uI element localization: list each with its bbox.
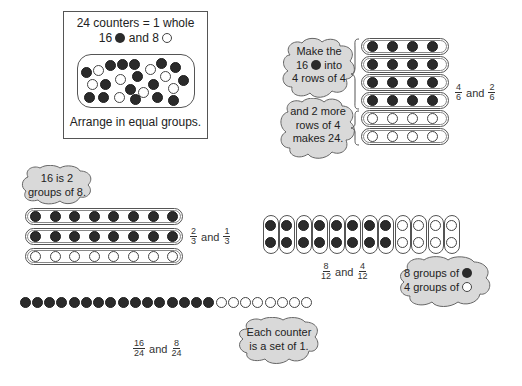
counter (50, 231, 61, 242)
counter (427, 77, 438, 88)
fraction-2-6: 26 (488, 83, 495, 102)
counter (427, 95, 438, 106)
counter (69, 231, 80, 242)
and-label: and (149, 343, 167, 355)
fraction-4-6: 46 (455, 83, 462, 102)
counter (277, 297, 288, 308)
counter (89, 251, 100, 262)
counter (114, 92, 125, 103)
counter (130, 297, 141, 308)
cloud-line: groups of 8. (20, 186, 94, 200)
counter (427, 59, 438, 70)
filled-counter-icon (311, 60, 321, 70)
counter (314, 220, 325, 231)
counter (108, 231, 119, 242)
cloud-word: into (324, 59, 342, 71)
counter (407, 41, 418, 52)
counter (44, 297, 55, 308)
counter (427, 113, 438, 124)
counter (347, 220, 358, 231)
counter (367, 95, 378, 106)
counter (93, 65, 104, 76)
counter (50, 211, 61, 222)
counter (148, 211, 159, 222)
cloud-pairs-text: 8 groups of 4 groups of (404, 266, 472, 294)
counter (265, 220, 276, 231)
filled-counter-icon (115, 33, 125, 43)
counter (216, 297, 227, 308)
cloud-rows-of-4-top-text: Make the 16 into 4 rows of 4 (280, 45, 358, 86)
counter (168, 95, 179, 106)
counter (167, 297, 178, 308)
cloud-line: 4 rows of 4 (280, 72, 358, 86)
counter (413, 220, 424, 231)
counter (93, 297, 104, 308)
counter (50, 251, 61, 262)
denominator: 12 (321, 272, 331, 281)
counter (367, 59, 378, 70)
counter (56, 297, 67, 308)
counter (105, 60, 116, 71)
counter (81, 297, 92, 308)
counter (364, 220, 375, 231)
counter (446, 237, 457, 248)
cloud-count: 16 (296, 59, 308, 71)
counter (298, 237, 309, 248)
counter (148, 79, 159, 90)
and-label: and (201, 231, 219, 243)
counter (32, 297, 43, 308)
row-of-8 (25, 228, 183, 245)
counter (132, 71, 143, 82)
fraction-1-3: 13 (223, 227, 230, 246)
counter (367, 41, 378, 52)
denominator: 12 (357, 272, 367, 281)
counter (129, 59, 140, 70)
counter (115, 74, 126, 85)
counter (154, 297, 165, 308)
counter (89, 211, 100, 222)
empty-counter-icon (162, 33, 172, 43)
counter (427, 131, 438, 142)
fraction-4-12: 412 (357, 262, 367, 281)
fraction-twenty-fourths: 1624 and 824 (133, 339, 181, 358)
counter (98, 92, 109, 103)
counter (430, 220, 441, 231)
counter (446, 220, 457, 231)
denominator: 6 (456, 93, 461, 102)
counter (281, 237, 292, 248)
counter (179, 297, 190, 308)
counter (191, 297, 202, 308)
fraction-8-12: 812 (321, 262, 331, 281)
counter (331, 237, 342, 248)
counter (117, 59, 128, 70)
counter (203, 297, 214, 308)
counter (347, 237, 358, 248)
counter (281, 220, 292, 231)
denominator: 6 (489, 93, 494, 102)
counter (314, 237, 325, 248)
counter (168, 83, 179, 94)
cloud-rows-of-4-bottom-text: and 2 more rows of 4 makes 24. (278, 105, 358, 146)
counter (407, 95, 418, 106)
counter (128, 251, 139, 262)
counter (265, 237, 276, 248)
intro-instruction: Arrange in equal groups. (64, 116, 207, 129)
counter (252, 297, 263, 308)
counter (69, 251, 80, 262)
denominator: 24 (171, 349, 181, 358)
counter (108, 251, 119, 262)
intro-and-empty: and 8 (129, 31, 159, 45)
counter (289, 297, 300, 308)
counter (301, 297, 312, 308)
counter (380, 237, 391, 248)
brace-empty-rows (350, 110, 360, 146)
intro-subtitle: 16 and 8 (64, 32, 207, 45)
filled-counter-icon (462, 268, 472, 278)
counter (380, 220, 391, 231)
counter (265, 297, 276, 308)
counter (81, 67, 92, 78)
counter (145, 64, 156, 75)
counter (156, 58, 167, 69)
fraction-thirds: 23 and 13 (190, 227, 230, 246)
counter (84, 92, 95, 103)
